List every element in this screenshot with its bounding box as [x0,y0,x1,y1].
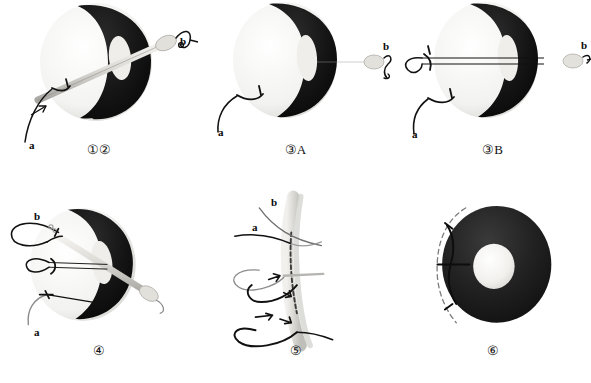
panel-step-1-2: a b ①② [0,0,197,191]
panel-6-caption: ⑥ [394,343,591,359]
figure-root: a b ①② [0,0,591,383]
panel-step-4: b a ④ [0,191,197,382]
panel-2-label-b: b [383,41,389,52]
panel-1-illustration [0,0,197,160]
panel-6-illustration [394,191,591,351]
panel-2-label-a: a [218,127,224,138]
panel-1-caption: ①② [0,142,197,158]
panel-2-caption: ③A [197,142,394,158]
panel-step-6: ⑥ [394,191,591,382]
panel-4-caption: ④ [0,343,197,359]
panel-step-5: b a ⑤ [197,191,394,382]
panel-2-illustration [197,0,394,160]
panel-5-caption: ⑤ [197,343,394,359]
panel-3-label-b: b [581,40,587,51]
panel-5-illustration [197,191,394,351]
panel-5-label-b: b [271,197,277,208]
panel-3-label-a: a [412,129,418,140]
panel-4-label-a: a [34,327,40,338]
panel-4-label-b: b [34,211,40,222]
panel-step-3a: a b ③A [197,0,394,191]
panel-3-illustration [394,0,591,160]
panel-step-3b: a b ③B [394,0,591,191]
panel-5-label-a: a [252,222,258,233]
panel-1-label-b: b [180,36,186,47]
panel-4-illustration [0,191,197,351]
panel-3-caption: ③B [394,142,591,158]
